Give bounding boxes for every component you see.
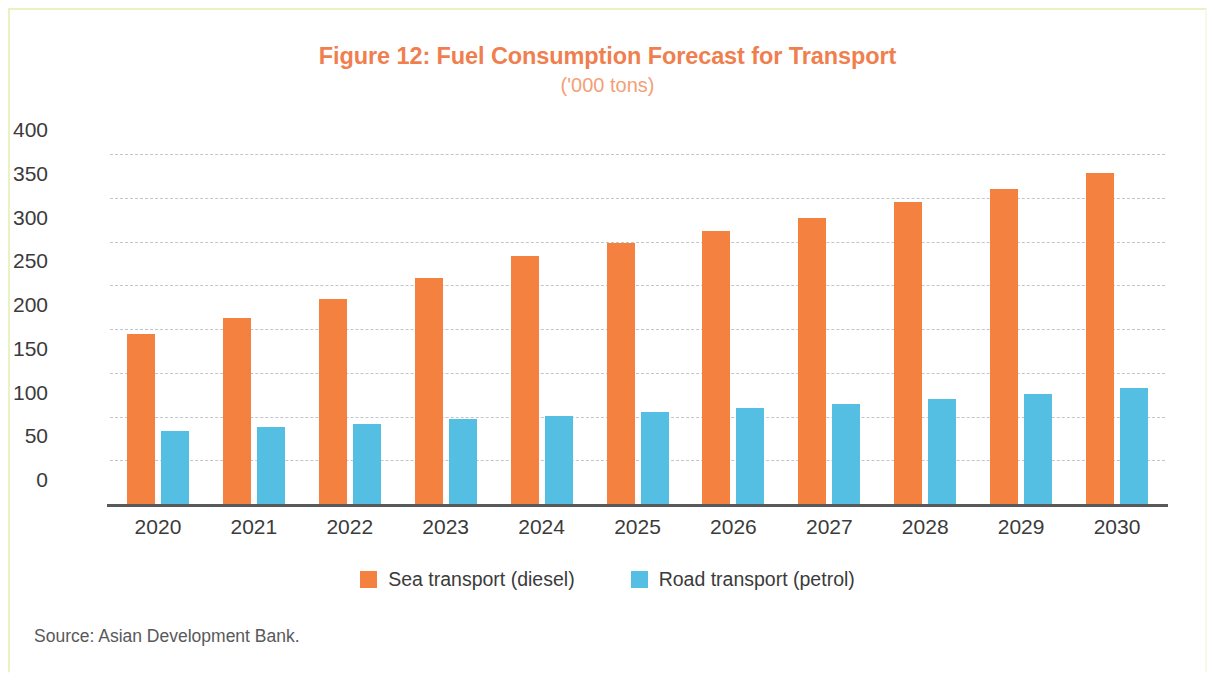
bar-group-2028: [894, 155, 956, 505]
y-axis-tick-label: 100: [0, 381, 48, 405]
x-axis-label-2020: 2020: [110, 515, 206, 539]
legend-swatch-icon: [360, 571, 377, 588]
y-axis-tick-label: 250: [0, 249, 48, 273]
x-axis-label-2023: 2023: [398, 515, 494, 539]
bar-road-transport-2025: [641, 412, 669, 505]
bar-sea-transport-2020: [127, 334, 155, 506]
bar-sea-transport-2029: [990, 189, 1018, 505]
bar-sea-transport-2028: [894, 202, 922, 505]
bar-group-2020: [127, 155, 189, 505]
y-axis-tick-label: 200: [0, 293, 48, 317]
bar-sea-transport-2026: [702, 231, 730, 505]
x-axis-label-2027: 2027: [781, 515, 877, 539]
bar-road-transport-2021: [257, 427, 285, 505]
legend-label: Road transport (petrol): [659, 568, 855, 591]
bar-road-transport-2030: [1120, 388, 1148, 505]
x-axis-label-2028: 2028: [877, 515, 973, 539]
bar-group-2030: [1086, 155, 1148, 505]
y-axis-tick-label: 400: [0, 118, 48, 142]
bar-road-transport-2028: [928, 399, 956, 505]
figure-title: Figure 12: Fuel Consumption Forecast for…: [0, 42, 1215, 70]
x-axis-label-2024: 2024: [494, 515, 590, 539]
figure-title-block: Figure 12: Fuel Consumption Forecast for…: [0, 42, 1215, 98]
bar-sea-transport-2023: [415, 278, 443, 505]
bar-group-2026: [702, 155, 764, 505]
x-axis-label-2029: 2029: [973, 515, 1069, 539]
bar-group-2023: [415, 155, 477, 505]
bar-road-transport-2026: [736, 408, 764, 505]
bar-road-transport-2029: [1024, 394, 1052, 505]
x-axis-label-2021: 2021: [206, 515, 302, 539]
bar-road-transport-2020: [161, 431, 189, 505]
bar-sea-transport-2022: [319, 299, 347, 506]
bar-group-2021: [223, 155, 285, 505]
bar-sea-transport-2025: [607, 243, 635, 505]
bar-road-transport-2024: [545, 416, 573, 505]
bar-group-2022: [319, 155, 381, 505]
bar-sea-transport-2021: [223, 318, 251, 505]
x-axis-label-2026: 2026: [685, 515, 781, 539]
bar-sea-transport-2030: [1086, 173, 1114, 506]
bar-group-2029: [990, 155, 1052, 505]
y-axis-tick-label: 350: [0, 162, 48, 186]
y-axis-tick-label: 50: [0, 424, 48, 448]
legend-label: Sea transport (diesel): [388, 568, 574, 591]
bar-road-transport-2027: [832, 404, 860, 506]
y-axis-tick-label: 300: [0, 206, 48, 230]
y-axis-tick-label: 0: [0, 468, 48, 492]
bar-group-2025: [607, 155, 669, 505]
bar-group-2027: [798, 155, 860, 505]
figure-subtitle: ('000 tons): [0, 72, 1215, 98]
legend-item[interactable]: Sea transport (diesel): [360, 568, 574, 591]
bar-group-2024: [511, 155, 573, 505]
legend-item[interactable]: Road transport (petrol): [631, 568, 855, 591]
legend-swatch-icon: [631, 571, 648, 588]
bar-sea-transport-2027: [798, 218, 826, 505]
y-axis-tick-label: 150: [0, 337, 48, 361]
x-axis-baseline: [107, 504, 1168, 507]
x-axis-label-2030: 2030: [1069, 515, 1165, 539]
bar-road-transport-2022: [353, 424, 381, 505]
x-axis-label-2025: 2025: [590, 515, 686, 539]
chart-legend: Sea transport (diesel)Road transport (pe…: [0, 568, 1215, 591]
bar-sea-transport-2024: [511, 256, 539, 505]
bar-road-transport-2023: [449, 419, 477, 505]
source-note: Source: Asian Development Bank.: [34, 626, 300, 647]
x-axis-label-2022: 2022: [302, 515, 398, 539]
figure-container: Figure 12: Fuel Consumption Forecast for…: [0, 0, 1215, 681]
chart-plot-area: 050100150200250300350400 202020212022202…: [110, 155, 1165, 505]
